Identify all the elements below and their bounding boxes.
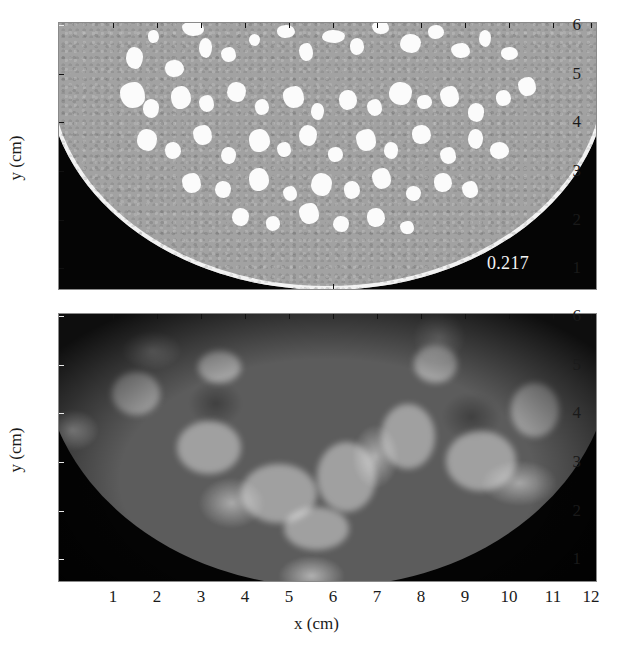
tick-mark-x [421, 22, 422, 28]
fibroglandular-blob [171, 86, 191, 109]
tick-mark-x [509, 22, 510, 28]
tick-mark-y [58, 74, 64, 75]
tick-mark-x [465, 22, 466, 28]
fibroglandular-blob [356, 129, 376, 151]
tick-mark-x [333, 284, 334, 290]
y-tick-label: 5 [559, 356, 581, 373]
tick-mark-x [465, 313, 466, 319]
x-tick-label: 2 [143, 588, 171, 605]
x-axis-title: x (cm) [0, 614, 633, 634]
tick-mark-x [421, 313, 422, 319]
tick-mark-y [58, 413, 64, 414]
y-tick-label: 6 [559, 307, 581, 324]
figure-root: 0.217 6 5 4 3 2 1 y (cm) [0, 0, 633, 656]
fibroglandular-blob [232, 208, 249, 226]
tick-mark-y [58, 559, 64, 560]
fibroglandular-blob [199, 95, 215, 112]
tick-mark-x [591, 313, 592, 319]
fibroglandular-blob [165, 60, 184, 77]
fibroglandular-blob [468, 103, 485, 121]
y-tick-label: 2 [559, 211, 581, 228]
fibroglandular-blob [479, 30, 491, 47]
fibroglandular-blob [277, 142, 290, 157]
tick-mark-x [377, 22, 378, 28]
y-tick-label: 5 [559, 65, 581, 82]
tick-mark-x [289, 22, 290, 28]
tick-mark-y [58, 220, 64, 221]
x-tick-label: 12 [577, 588, 605, 605]
x-tick-label: 3 [187, 588, 215, 605]
fibroglandular-blob [372, 22, 389, 34]
fibroglandular-blob [311, 103, 324, 119]
tick-mark-x [113, 22, 114, 28]
fibroglandular-blob [182, 173, 201, 193]
tick-mark-x [553, 313, 554, 319]
x-tick-label: 8 [407, 588, 435, 605]
fibroglandular-blob [193, 125, 212, 145]
fibroglandular-blob [221, 147, 236, 164]
tick-mark-x [245, 313, 246, 319]
fibroglandular-blob [451, 43, 470, 59]
fibroglandular-blob [518, 77, 536, 96]
fibroglandular-blob [440, 147, 457, 164]
x-tick-label: 1 [99, 588, 127, 605]
tick-mark-y [58, 268, 64, 269]
fibroglandular-blob [143, 99, 160, 118]
fibroglandular-blob [400, 221, 413, 235]
y-tick-label: 2 [559, 502, 581, 519]
fibroglandular-blob [462, 181, 478, 197]
fibroglandular-blob [440, 86, 459, 107]
tick-mark-x [157, 22, 158, 28]
tick-mark-x [591, 22, 592, 28]
y-axis-title: y (cm) [6, 128, 26, 188]
fibroglandular-blob [490, 142, 509, 158]
y-tick-label: 1 [559, 550, 581, 567]
fibroglandular-blob [412, 125, 431, 144]
x-tick-label: 5 [275, 588, 303, 605]
fibroglandular-blob [126, 47, 143, 69]
fibroglandular-blob [283, 186, 298, 202]
fibroglandular-blob [384, 142, 399, 158]
fibroglandular-blob [389, 82, 411, 105]
fibroglandular-blob [255, 99, 270, 115]
tick-mark-x [157, 313, 158, 319]
y-tick-label: 4 [559, 113, 581, 130]
fibroglandular-blob [333, 216, 349, 232]
tick-mark-x [333, 22, 334, 28]
fibroglandular-blob [299, 43, 312, 61]
fibroglandular-blob [215, 181, 231, 197]
y-tick-label: 3 [559, 453, 581, 470]
tick-mark-x [245, 22, 246, 28]
fibroglandular-blob [406, 186, 421, 201]
tick-mark-y [58, 511, 64, 512]
panel-simulated-mammogram [58, 313, 597, 582]
tick-mark-x [509, 313, 510, 319]
fibroglandular-blob [367, 208, 385, 227]
y-axis-title: y (cm) [6, 420, 26, 480]
tick-mark-y [58, 171, 64, 172]
fibroglandular-blob [137, 129, 157, 151]
fibroglandular-blob [417, 95, 432, 110]
fibroglandular-blob [372, 168, 391, 189]
fibroglandular-blob [221, 47, 236, 62]
tick-mark-y [58, 365, 64, 366]
tick-mark-x [377, 313, 378, 319]
tick-mark-y [58, 122, 64, 123]
tick-mark-y [58, 462, 64, 463]
fibroglandular-blob [165, 142, 181, 158]
fibroglandular-blob [299, 203, 318, 224]
tick-mark-y [58, 316, 64, 317]
x-tick-label: 10 [495, 588, 523, 605]
mammogram-vignette [58, 313, 597, 582]
tick-mark-x [289, 313, 290, 319]
fibroglandular-blob [227, 82, 246, 103]
y-tick-label: 3 [559, 162, 581, 179]
x-tick-label: 9 [451, 588, 479, 605]
fibroglandular-blob [339, 90, 357, 110]
tick-mark-x [113, 313, 114, 319]
density-annotation: 0.217 [487, 253, 529, 274]
tick-mark-x [553, 22, 554, 28]
y-tick-label: 1 [559, 259, 581, 276]
tick-mark-x [201, 313, 202, 319]
x-tick-label: 11 [539, 588, 567, 605]
